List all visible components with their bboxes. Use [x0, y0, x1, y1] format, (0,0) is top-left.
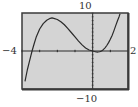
graph-screen — [0, 0, 138, 107]
